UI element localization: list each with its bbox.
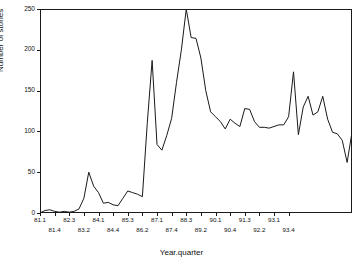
x-tick-mark bbox=[113, 213, 114, 216]
x-axis-label: Year.quarter bbox=[0, 248, 363, 257]
x-tick-label: 90.4 bbox=[215, 227, 245, 233]
x-tick-label: 84.1 bbox=[84, 217, 114, 223]
x-tick-label: 89.2 bbox=[186, 227, 216, 233]
x-tick-label: 92.2 bbox=[244, 227, 274, 233]
y-tick-label: 100 bbox=[9, 128, 35, 135]
y-tick-label: 150 bbox=[9, 87, 35, 94]
x-tick-mark bbox=[289, 213, 290, 216]
x-tick-mark bbox=[230, 213, 231, 216]
x-tick-label: 86.2 bbox=[127, 227, 157, 233]
x-tick-label: 81.4 bbox=[40, 227, 70, 233]
chart-figure: Number of stories 050100150200250 81.181… bbox=[0, 0, 363, 267]
y-tick-label: 200 bbox=[9, 46, 35, 53]
x-tick-label: 84.4 bbox=[98, 227, 128, 233]
x-tick-label: 90.1 bbox=[201, 217, 231, 223]
x-tick-label: 93.1 bbox=[259, 217, 289, 223]
x-tick-label: 85.3 bbox=[113, 217, 143, 223]
x-tick-label: 93.4 bbox=[274, 227, 304, 233]
x-tick-label: 82.3 bbox=[54, 217, 84, 223]
y-tick-label: 50 bbox=[9, 169, 35, 176]
y-tick-label: 250 bbox=[9, 6, 35, 13]
x-tick-mark bbox=[55, 213, 56, 216]
x-tick-label: 83.2 bbox=[69, 227, 99, 233]
x-tick-label: 87.4 bbox=[157, 227, 187, 233]
plot-frame bbox=[40, 9, 352, 213]
y-tick-label: 0 bbox=[9, 210, 35, 217]
x-tick-label: 81.1 bbox=[25, 217, 55, 223]
plot-area bbox=[40, 9, 352, 213]
x-tick-label: 91.3 bbox=[230, 217, 260, 223]
x-tick-mark bbox=[142, 213, 143, 216]
x-tick-mark bbox=[172, 213, 173, 216]
x-tick-mark bbox=[259, 213, 260, 216]
x-tick-label: 88.3 bbox=[171, 217, 201, 223]
y-axis-label: Number of stories bbox=[0, 9, 5, 72]
x-tick-mark bbox=[84, 213, 85, 216]
x-tick-mark bbox=[201, 213, 202, 216]
x-tick-label: 87.1 bbox=[142, 217, 172, 223]
